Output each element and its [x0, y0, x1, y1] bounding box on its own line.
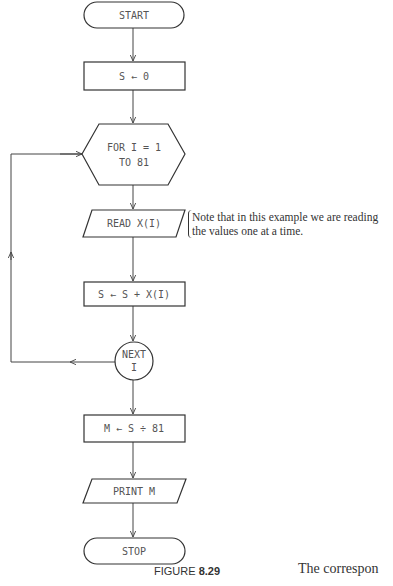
for-loop-hexagon: FOR I = 1 TO 81: [82, 124, 185, 185]
body-text: The correspon: [298, 561, 378, 577]
annotation-note: Note that in this example we are reading…: [188, 210, 378, 238]
loop-label-2: TO 81: [119, 157, 149, 168]
caption-number: 8.29: [199, 565, 220, 577]
stop-terminal: STOP: [84, 538, 185, 564]
note-line-2: the values one at a time.: [192, 224, 378, 238]
caption-prefix: FIGURE: [154, 565, 199, 577]
accumulate-process: S ← S + X(I): [84, 282, 185, 306]
start-terminal: START: [84, 2, 184, 28]
read-input: READ X(I): [83, 210, 185, 237]
loop-label-1: FOR I = 1: [107, 142, 161, 153]
stop-label: STOP: [122, 546, 146, 557]
print-output: PRINT M: [83, 479, 186, 503]
flowchart-diagram: START S ← 0 FOR I = 1 TO 81 READ X(I) S …: [0, 0, 393, 586]
mean-label: M ← S ÷ 81: [104, 423, 164, 434]
figure-caption: FIGURE 8.29: [154, 565, 220, 577]
print-label: PRINT M: [113, 486, 155, 497]
next-connector: NEXT I: [115, 342, 153, 380]
start-label: START: [119, 10, 149, 21]
accumulate-label: S ← S + X(I): [98, 289, 170, 300]
init-process: S ← 0: [84, 62, 185, 90]
init-label: S ← 0: [119, 71, 149, 82]
read-label: READ X(I): [107, 218, 161, 229]
next-label-1: NEXT: [122, 349, 146, 360]
next-label-2: I: [131, 362, 137, 373]
note-line-1: Note that in this example we are reading: [192, 210, 378, 224]
mean-process: M ← S ÷ 81: [84, 415, 185, 442]
